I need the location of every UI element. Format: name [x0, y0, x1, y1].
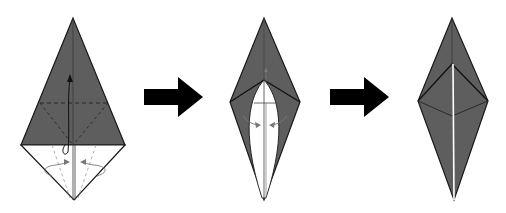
step-1-figure [21, 18, 125, 200]
arrow-1-icon [144, 77, 203, 117]
arrow-2-icon [330, 77, 389, 117]
step-2-figure [230, 18, 300, 200]
step-3-figure [418, 18, 488, 200]
origami-diagram: Origami folding sequence [0, 0, 506, 213]
